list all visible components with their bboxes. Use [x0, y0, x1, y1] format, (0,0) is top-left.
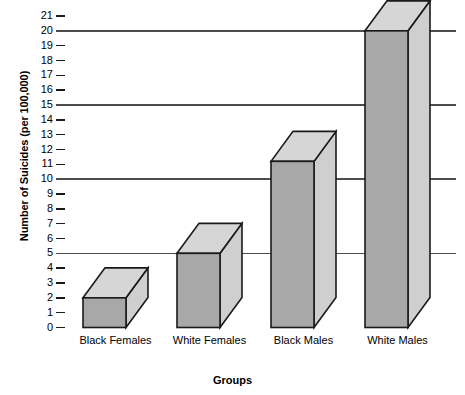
bar-front-face	[365, 31, 408, 328]
bar-side-face	[408, 1, 430, 328]
x-axis-title: Groups	[0, 374, 465, 386]
bar-front-face	[83, 298, 126, 328]
bar	[365, 1, 430, 328]
x-axis-category-label: White Males	[338, 334, 458, 346]
bar	[83, 268, 148, 328]
bar-side-face	[314, 131, 336, 327]
bar-chart: Number of Suicides (per 100,000) 0123456…	[0, 0, 465, 395]
bar	[177, 223, 242, 327]
bar	[271, 131, 336, 327]
bar-front-face	[271, 161, 314, 327]
bar-front-face	[177, 253, 220, 327]
